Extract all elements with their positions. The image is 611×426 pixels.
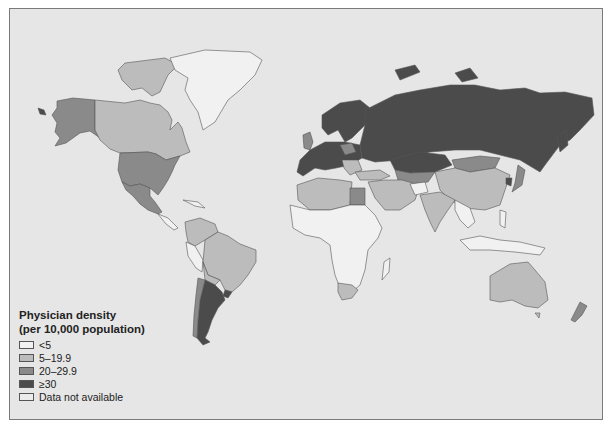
legend-item-lt5: <5 — [19, 339, 145, 351]
legend-item-5-19: 5–19.9 — [19, 352, 145, 364]
region-canada-arctic — [118, 58, 178, 96]
legend-label: 5–19.9 — [39, 352, 71, 364]
region-peru — [186, 242, 203, 272]
legend-title: Physician density — [19, 308, 145, 322]
region-madagascar — [382, 258, 390, 280]
region-central-america — [158, 214, 178, 230]
legend-subtitle: (per 10,000 population) — [19, 322, 145, 336]
legend-swatch — [19, 393, 34, 401]
legend-label: ≥30 — [39, 378, 56, 390]
region-indonesia — [460, 236, 545, 255]
legend-label: <5 — [39, 339, 51, 351]
legend: Physician density (per 10,000 population… — [19, 308, 145, 404]
legend-label: Data not available — [39, 391, 123, 403]
legend-item-20-29: 20–29.9 — [19, 365, 145, 377]
region-turkey — [355, 170, 390, 180]
region-india — [420, 192, 455, 232]
region-novaya-zemlya — [395, 65, 420, 80]
legend-swatch — [19, 354, 34, 362]
legend-swatch — [19, 380, 34, 388]
legend-swatch — [19, 367, 34, 375]
legend-item-na: Data not available — [19, 391, 145, 403]
region-tasmania — [535, 313, 540, 318]
region-canada — [95, 100, 190, 160]
region-egypt — [350, 188, 365, 205]
region-sub-saharan-africa — [290, 205, 382, 292]
region-philippines — [500, 210, 506, 228]
region-australia — [490, 262, 548, 308]
region-greenland — [170, 50, 262, 130]
legend-swatch — [19, 341, 34, 349]
legend-item-gte30: ≥30 — [19, 378, 145, 390]
region-aleutians — [38, 108, 46, 115]
region-new-zealand — [571, 302, 587, 322]
region-japan — [512, 165, 525, 192]
region-uk — [303, 132, 313, 150]
region-north-africa — [297, 178, 352, 210]
region-arctic-islands — [455, 68, 478, 82]
legend-label: 20–29.9 — [39, 365, 77, 377]
region-caribbean — [183, 200, 205, 208]
